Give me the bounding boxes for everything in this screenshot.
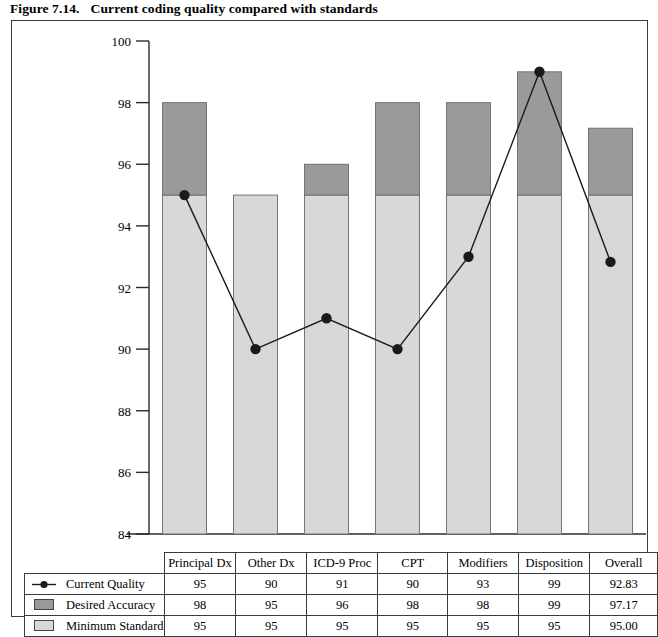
table-cell: 95	[164, 574, 236, 595]
bar-segment-minimum-standard	[163, 195, 207, 534]
bars-group	[163, 72, 633, 534]
bar-segment-desired-accuracy	[376, 103, 420, 195]
table-row: Current Quality95909190939992.83	[25, 574, 658, 595]
table-cell: 95	[164, 616, 236, 637]
legend-minimum-standard-swatch-icon	[29, 620, 59, 633]
table-column-header: CPT	[378, 553, 448, 574]
data-point-marker[interactable]	[321, 313, 331, 323]
table-cell: 95	[519, 616, 590, 637]
table-column-header: ICD-9 Proc	[307, 553, 378, 574]
table-cell: 93	[448, 574, 519, 595]
table-row-label: Desired Accuracy	[66, 598, 155, 613]
bar-segment-minimum-standard	[518, 195, 562, 534]
table-cell: 95	[236, 595, 307, 616]
figure-caption: Figure 7.14.Current coding quality compa…	[10, 1, 378, 17]
table-cell: 99	[519, 574, 590, 595]
data-point-marker[interactable]	[250, 344, 260, 354]
data-point-marker[interactable]	[605, 257, 615, 267]
table-row: Minimum Standard95959595959595.00	[25, 616, 658, 637]
table-row-label-cell: Minimum Standard	[25, 616, 165, 637]
y-axis-tick-label: 98	[97, 96, 131, 109]
bar-segment-desired-accuracy	[163, 103, 207, 195]
bar-segment-minimum-standard	[376, 195, 420, 534]
table-row-label-cell: Desired Accuracy	[25, 595, 165, 616]
table-cell: 97.17	[590, 595, 658, 616]
table-cell: 92.83	[590, 574, 658, 595]
table-cell: 95	[307, 616, 378, 637]
table-row-label: Minimum Standard	[66, 619, 164, 634]
table-cell: 98	[164, 595, 236, 616]
plot-area: 1009896949290888684	[12, 21, 649, 618]
table-column-header: Principal Dx	[164, 553, 236, 574]
table-cell: 95	[236, 616, 307, 637]
table-cell: 90	[236, 574, 307, 595]
figure-frame: 1009896949290888684 Principal DxOther Dx…	[11, 20, 648, 617]
table-column-header: Disposition	[519, 553, 590, 574]
bar-segment-minimum-standard	[589, 195, 633, 534]
y-axis-tick-label: 92	[97, 281, 131, 294]
figure-number: Figure 7.14.	[10, 1, 80, 16]
y-axis-tick-label: 96	[97, 158, 131, 171]
bar-segment-minimum-standard	[305, 195, 349, 534]
data-point-marker[interactable]	[392, 344, 402, 354]
table-row-label: Current Quality	[66, 577, 145, 592]
data-point-marker[interactable]	[534, 67, 544, 77]
y-axis-tick-label: 86	[97, 466, 131, 479]
table-cell: 95	[378, 616, 448, 637]
table-cell: 95	[448, 616, 519, 637]
table-cell: 90	[378, 574, 448, 595]
legend-desired-accuracy-swatch-icon	[29, 599, 59, 612]
table-column-header: Overall	[590, 553, 658, 574]
table-column-header: Modifiers	[448, 553, 519, 574]
table-header-row: Principal DxOther DxICD-9 ProcCPTModifie…	[25, 553, 658, 574]
table-cell: 98	[378, 595, 448, 616]
bar-segment-desired-accuracy	[305, 164, 349, 195]
figure-title: Current coding quality compared with sta…	[91, 1, 378, 16]
table-corner-cell	[25, 553, 165, 574]
data-point-marker[interactable]	[463, 252, 473, 262]
table-cell: 98	[448, 595, 519, 616]
y-axis-tick-label: 84	[97, 528, 131, 541]
y-axis-tick-label: 88	[97, 404, 131, 417]
data-table: Principal DxOther DxICD-9 ProcCPTModifie…	[24, 552, 658, 637]
table-row: Desired Accuracy98959698989997.17	[25, 595, 658, 616]
table-cell: 95.00	[590, 616, 658, 637]
y-axis-tick-label: 100	[97, 35, 131, 48]
table-cell: 91	[307, 574, 378, 595]
y-axis-tick-label: 94	[97, 219, 131, 232]
bar-segment-minimum-standard	[447, 195, 491, 534]
table-cell: 96	[307, 595, 378, 616]
legend-line-marker-icon	[29, 578, 59, 591]
table-row-label-cell: Current Quality	[25, 574, 165, 595]
table-cell: 99	[519, 595, 590, 616]
data-point-marker[interactable]	[179, 190, 189, 200]
bar-segment-desired-accuracy	[447, 103, 491, 195]
bar-segment-desired-accuracy	[518, 72, 562, 195]
table-column-header: Other Dx	[236, 553, 307, 574]
bar-segment-minimum-standard	[234, 195, 278, 534]
table-body: Current Quality95909190939992.83Desired …	[25, 574, 658, 637]
y-axis-tick-label: 90	[97, 343, 131, 356]
bar-segment-desired-accuracy	[589, 128, 633, 195]
